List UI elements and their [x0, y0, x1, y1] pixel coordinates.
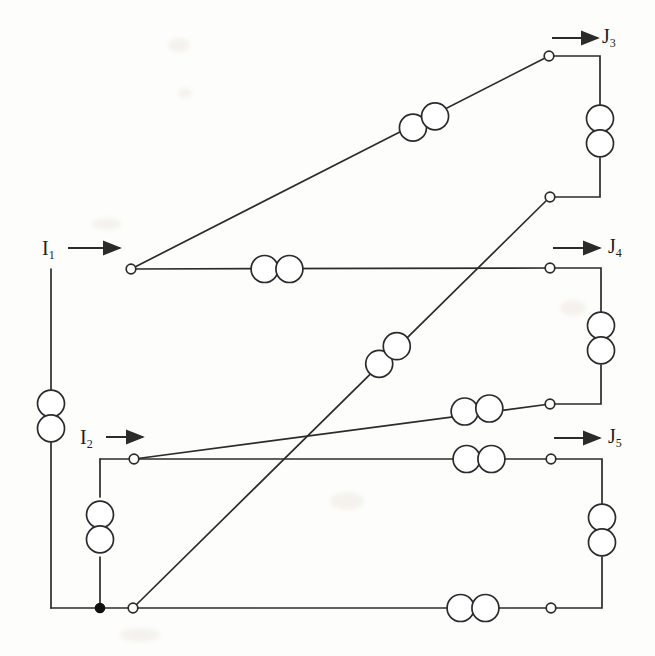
label-J4: J4 — [608, 236, 622, 256]
label-J5-base: J — [608, 425, 616, 447]
label-J5: J5 — [608, 426, 622, 446]
nodes-layer — [95, 51, 555, 613]
label-J4-subscript: 4 — [616, 246, 622, 260]
node-I2-terminal — [129, 454, 139, 464]
node-J3-top — [544, 51, 554, 61]
coil-left-rail — [38, 390, 65, 442]
label-J5-subscript: 5 — [616, 436, 622, 450]
coil-I2-branch — [453, 446, 505, 473]
label-I2-base: I — [80, 426, 87, 448]
circuit-diagram-canvas: I1I2J3J4J5 — [0, 0, 655, 656]
coil-J3-diagonal — [399, 103, 448, 141]
wire-J5-right-top — [551, 459, 602, 504]
wire-J4-right-top — [550, 268, 601, 312]
node-I1-terminal — [126, 264, 136, 274]
label-I1: I1 — [42, 238, 55, 258]
label-I2: I2 — [80, 427, 93, 447]
wire-I1-to-J3-diagonal — [131, 56, 549, 269]
coil-J4-vertical — [588, 312, 615, 364]
coil-I1-branch — [251, 256, 303, 283]
coil-I2-stub — [87, 501, 114, 553]
coil-bottom-branch — [447, 595, 499, 622]
label-I1-base: I — [42, 237, 49, 259]
node-J5-top — [546, 454, 556, 464]
arrows-layer — [68, 38, 600, 438]
wire-I1-horizontal — [131, 268, 550, 269]
label-J3-base: J — [602, 25, 610, 47]
label-I2-subscript: 2 — [87, 437, 93, 451]
coil-J3-vertical — [587, 105, 614, 157]
wire-J4-right-bottom — [550, 365, 601, 404]
node-J3-bottom — [545, 192, 555, 202]
wires-layer — [51, 56, 602, 608]
node-junction-dot — [95, 603, 104, 612]
coil-I2-upper-branch — [451, 395, 503, 425]
label-I1-subscript: 1 — [49, 248, 55, 262]
label-J4-base: J — [608, 235, 616, 257]
node-bottom-left — [128, 603, 138, 613]
coils-layer — [38, 103, 616, 622]
node-J5-bottom — [546, 603, 556, 613]
label-J3: J3 — [602, 26, 616, 46]
wire-J3-right-top — [549, 56, 600, 105]
node-J4-bottom — [545, 399, 555, 409]
circuit-svg — [0, 0, 655, 656]
wire-J5-right-bottom — [551, 557, 602, 608]
wire-J3-right-bottom — [550, 158, 600, 197]
coil-mid-diagonal — [366, 333, 411, 378]
coil-J5-vertical — [589, 504, 616, 556]
label-J3-subscript: 3 — [610, 36, 616, 50]
node-J4-top — [545, 263, 555, 273]
